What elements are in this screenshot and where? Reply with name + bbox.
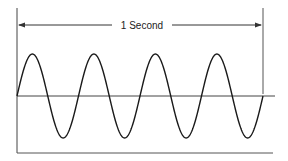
arrowhead-right-icon — [255, 23, 262, 28]
arrowhead-left-icon — [18, 23, 25, 28]
sine-wave-diagram: 1 Second — [0, 0, 288, 161]
duration-label: 1 Second — [121, 20, 163, 31]
